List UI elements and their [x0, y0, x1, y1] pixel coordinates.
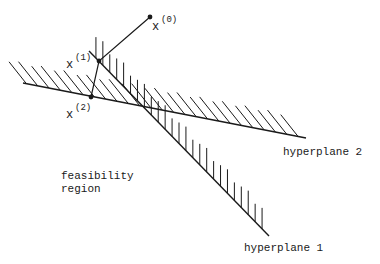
point-x2-superscript: (2)	[75, 103, 91, 113]
feasibility-region-label-line1: feasibility	[61, 170, 134, 182]
point-x0-label: x	[152, 20, 159, 34]
point-x1-superscript: (1)	[75, 53, 91, 63]
point-x0-superscript: (0)	[161, 15, 177, 25]
point-x0	[148, 15, 153, 20]
hatch-stroke	[9, 62, 26, 84]
hyperplane-1-line	[89, 51, 269, 236]
point-x2	[89, 95, 94, 100]
hyperplane-1-label: hyperplane 1	[244, 242, 324, 254]
point-x1-label: x	[66, 58, 73, 72]
hyperplane-1-hatching	[96, 37, 262, 229]
projection-path	[91, 17, 150, 97]
projection-diagram: x(0)x(1)x(2) hyperplane 1 hyperplane 2 f…	[0, 0, 380, 264]
hyperplane-2-hatching	[9, 62, 298, 137]
iterate-points: x(0)x(1)x(2)	[66, 15, 177, 122]
feasibility-region-label-line2: region	[61, 183, 101, 195]
hatch-stroke	[18, 62, 37, 86]
point-x2-label: x	[66, 108, 73, 122]
hyperplane-2-label: hyperplane 2	[283, 146, 362, 158]
point-x1	[97, 59, 102, 64]
